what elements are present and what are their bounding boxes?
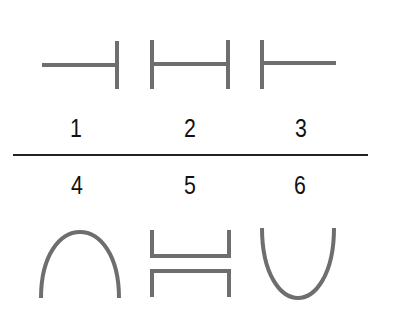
symbol-4-arch-icon	[41, 232, 119, 298]
symbols-diagram	[0, 0, 396, 324]
symbol-2-bar-bridge-icon	[152, 40, 228, 89]
label-1: 1	[70, 115, 82, 141]
label-3: 3	[295, 115, 307, 141]
label-5: 5	[184, 172, 196, 198]
label-2: 2	[184, 115, 196, 141]
symbol-6-u-curve-icon	[262, 228, 334, 298]
label-4: 4	[71, 172, 83, 198]
symbol-3-bar-line-icon	[262, 40, 336, 89]
symbol-1-line-bar-icon	[42, 41, 117, 89]
symbol-5-split-bracket-icon	[152, 230, 229, 297]
label-6: 6	[294, 172, 306, 198]
